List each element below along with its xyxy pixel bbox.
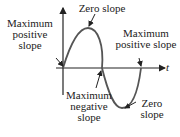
label-max-positive-right: Maximum positive slope [110,28,180,50]
label-zero-slope-bottom: Zero slope [132,98,172,120]
axis-label-t: t [166,62,169,73]
label-max-negative: Maximum negative slope [62,90,116,123]
label-zero-slope-top: Zero slope [72,3,132,14]
label-max-positive-left: Maximum positive slope [2,18,58,51]
